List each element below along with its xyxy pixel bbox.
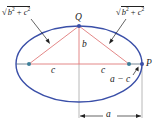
right-c-label: c (101, 66, 105, 76)
radicand: b2 + c2 (7, 6, 31, 17)
q-point (77, 24, 81, 28)
radical-sign: √ (2, 7, 7, 17)
exponent: 2 (142, 6, 145, 12)
dimension-arrow-left (80, 114, 85, 118)
dimension-arrow-right (136, 114, 141, 118)
left-hypotenuse-label: √b2 + c2 (2, 7, 30, 16)
p-point (140, 62, 144, 66)
left-pointer-arrowhead (46, 38, 51, 44)
semi-minor-label: b (82, 40, 87, 50)
semi-major-label: a (106, 110, 111, 120)
radicand: b2 + c2 (121, 6, 145, 17)
left-focus-point (27, 62, 31, 66)
right-pointer-arrowhead (109, 39, 114, 44)
left-label-pointer (31, 19, 49, 42)
right-hypotenuse-label: √b2 + c2 (116, 7, 144, 16)
plus-operator: + (15, 7, 24, 17)
right-label-pointer (110, 19, 126, 42)
left-c-label: c (51, 66, 55, 76)
a-minus-c-label: a − c (110, 75, 130, 85)
left-hypotenuse (29, 26, 79, 64)
point-p-label: P (146, 59, 152, 69)
point-q-label: Q (75, 13, 82, 23)
exponent: 2 (28, 6, 31, 12)
radical-sign: √ (116, 7, 121, 17)
plus-operator: + (129, 7, 138, 17)
right-focus-point (127, 62, 131, 66)
